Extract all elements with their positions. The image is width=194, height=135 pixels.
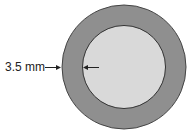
left-arrow-icon <box>45 65 61 70</box>
thickness-label: 3.5 mm <box>5 60 45 74</box>
